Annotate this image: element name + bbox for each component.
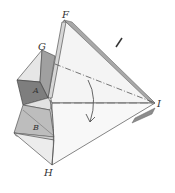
label-a: A [32, 86, 39, 95]
cone-face-lower [52, 103, 155, 165]
tick-mark [116, 38, 122, 47]
face-b [14, 105, 54, 137]
label-h: H [43, 167, 53, 178]
face-g-light [17, 50, 42, 82]
label-f: F [61, 9, 70, 20]
label-b: B [32, 123, 39, 132]
label-g: G [38, 41, 46, 52]
origami-diagram: F G A B H I [0, 0, 175, 193]
label-i: I [156, 98, 162, 109]
